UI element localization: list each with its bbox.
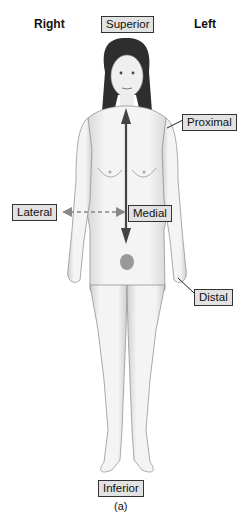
figure-caption: (a): [114, 500, 127, 512]
label-inferior: Inferior: [98, 480, 144, 497]
label-proximal: Proximal: [182, 114, 237, 131]
label-medial: Medial: [128, 205, 172, 222]
label-distal: Distal: [194, 289, 233, 306]
human-body-figure: [0, 0, 252, 519]
label-lateral: Lateral: [12, 204, 57, 221]
label-superior: Superior: [101, 16, 154, 33]
